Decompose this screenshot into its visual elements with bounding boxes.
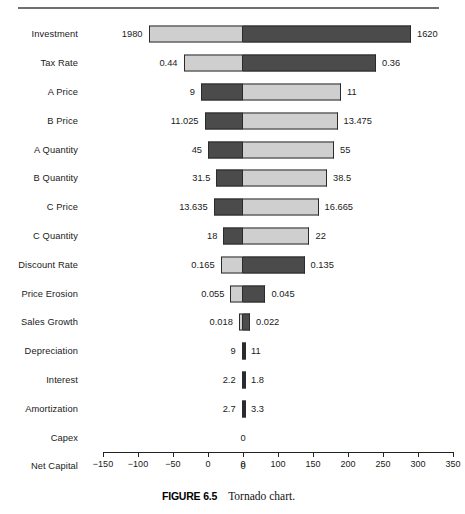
figure-caption-text: Tornado chart. [228,490,295,502]
row-value-high: 55 [340,145,420,155]
bar-segment-low [149,26,244,43]
row-value-high: 22 [316,231,396,241]
bar-segment-high [243,26,411,43]
tornado-bar[interactable] [205,112,338,129]
row-label: C Price [0,202,78,212]
tornado-row: Depreciation911 [0,337,457,366]
row-value-high: 38.5 [333,173,413,183]
row-plot-area: 0.1650.135 [78,250,457,279]
row-label: Capex [0,433,78,443]
tornado-row: Discount Rate0.1650.135 [0,250,457,279]
tornado-row: Tax Rate0.440.36 [0,49,457,78]
row-value-low: 11.025 [119,116,199,126]
tornado-row: A Quantity4555 [0,135,457,164]
row-value-high: 0.135 [311,260,391,270]
axis-tick [383,452,384,457]
row-value-low: 45 [122,145,202,155]
tornado-bar[interactable] [242,371,246,388]
axis-tick [453,452,454,457]
tornado-bar[interactable] [242,400,246,417]
bar-segment-high [243,83,341,100]
row-value-high: 0.022 [256,317,336,327]
row-value-low: 0.165 [135,260,215,270]
bar-segment-low [205,112,244,129]
row-value-high: 0.36 [382,58,462,68]
tornado-bar[interactable] [221,256,305,273]
bar-segment-low [184,55,244,72]
bar-segment-high [243,285,265,302]
axis-tick [208,452,209,457]
row-plot-area: 0.0550.045 [78,279,457,308]
row-plot-area: 4555 [78,135,457,164]
tornado-bar[interactable] [214,199,319,216]
bar-segment-high [243,256,305,273]
tornado-row: A Price911 [0,78,457,107]
tornado-bar[interactable] [208,141,334,158]
tornado-bar[interactable] [184,55,377,72]
tornado-bar[interactable] [230,285,265,302]
bar-segment-high [243,314,250,331]
row-label: B Quantity [0,173,78,183]
row-value-center: 0 [213,433,273,443]
row-label: Sales Growth [0,317,78,327]
axis-tick [103,452,104,457]
row-value-low: 18 [137,231,217,241]
figure-number: FIGURE 6.5 [162,490,217,502]
bar-segment-low [223,227,243,244]
row-value-high: 1620 [417,29,465,39]
tornado-bar[interactable] [239,314,250,331]
bar-segment-high [243,112,338,129]
axis-tick [173,452,174,457]
row-value-low: 13.635 [128,202,208,212]
row-plot-area: 911 [78,78,457,107]
row-value-low: 1980 [63,29,143,39]
row-label: Discount Rate [0,260,78,270]
row-value-low: 0.055 [144,289,224,299]
tornado-chart-rows: Investment19801620Tax Rate0.440.36A Pric… [0,20,457,481]
row-plot-area: 2.73.3 [78,394,457,423]
row-plot-area: 2.21.8 [78,366,457,395]
tornado-bar[interactable] [242,343,246,360]
row-plot-area: 0.440.36 [78,49,457,78]
row-label: C Quantity [0,231,78,241]
tornado-row: B Price11.02513.475 [0,106,457,135]
tornado-bar[interactable] [201,83,341,100]
row-value-low: 0.44 [98,58,178,68]
row-label: Price Erosion [0,289,78,299]
tornado-row: Price Erosion0.0550.045 [0,279,457,308]
row-label: Interest [0,375,78,385]
row-value-low: 2.2 [156,375,236,385]
row-plot-area: 0.0180.022 [78,308,457,337]
axis-tick [243,452,244,457]
row-value-high: 3.3 [251,404,331,414]
row-plot-area: 13.63516.665 [78,193,457,222]
row-value-high: 16.665 [325,202,405,212]
axis-tick [138,452,139,457]
bar-segment-low [214,199,243,216]
row-label: B Price [0,116,78,126]
row-value-low: 9 [156,346,236,356]
tornado-bar[interactable] [223,227,309,244]
row-plot-area: 19801620 [78,20,457,49]
bar-segment-low [201,83,243,100]
figure-caption: FIGURE 6.5Tornado chart. [0,486,457,504]
bar-segment-high [244,343,246,360]
tornado-bar[interactable] [149,26,412,43]
row-value-low: 9 [115,87,195,97]
tornado-bar[interactable] [216,170,327,187]
bar-segment-high [243,227,310,244]
row-label: A Price [0,87,78,97]
row-value-high: 13.475 [344,116,424,126]
row-label: Net Capital [0,461,78,471]
row-label: Amortization [0,404,78,414]
row-label: Depreciation [0,346,78,356]
bar-segment-low [216,170,243,187]
bar-segment-low [230,285,243,302]
axis-tick [418,452,419,457]
bar-segment-high [244,371,246,388]
row-value-low: 0.018 [153,317,233,327]
row-plot-area: 1822 [78,222,457,251]
x-axis: −150−100−5000100150200250300350 [78,452,457,478]
tornado-row: Amortization2.73.3 [0,394,457,423]
